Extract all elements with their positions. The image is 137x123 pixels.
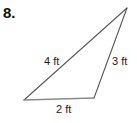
triangle-side-base bbox=[24, 98, 94, 100]
triangle-side-left bbox=[24, 8, 127, 100]
side-label-base: 2 ft bbox=[56, 104, 71, 115]
side-label-right: 3 ft bbox=[112, 56, 127, 67]
worksheet-problem-figure: 8. 4 ft 3 ft 2 ft bbox=[0, 0, 137, 123]
triangle-side-right bbox=[94, 8, 127, 98]
side-label-left: 4 ft bbox=[44, 56, 59, 67]
